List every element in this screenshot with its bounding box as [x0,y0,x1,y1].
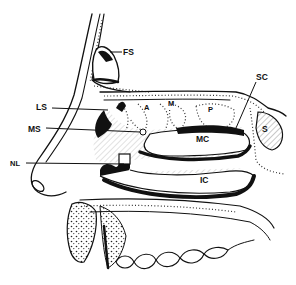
label-a: A [144,103,150,112]
label-nl: NL [10,159,20,168]
maxilla-alveolus [67,202,126,268]
sphenoid-sinus [250,108,284,174]
leader-nl [26,163,124,164]
label-ls: LS [36,102,47,112]
label-fs: FS [123,47,134,57]
label-s: S [262,124,268,134]
label-p: P [208,105,213,114]
nasal-anatomy-diagram: FS SC LS A M P MS MC S NL IC [0,0,296,285]
label-m: M [168,99,174,108]
ostium-marker [140,129,146,135]
label-mc: MC [196,134,209,144]
label-sc: SC [256,72,268,82]
inferior-concha [100,168,254,197]
nostril-icon [30,178,46,193]
label-ic: IC [200,175,209,185]
maxillary-teeth [116,240,254,269]
leader-ls [52,108,108,110]
label-ms: MS [28,124,41,134]
leader-sc [236,82,256,128]
